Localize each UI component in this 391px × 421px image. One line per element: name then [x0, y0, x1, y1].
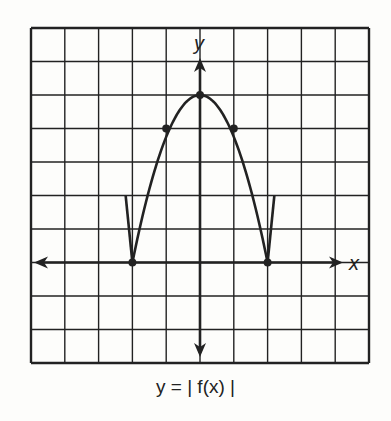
data-point: [162, 125, 170, 133]
data-point: [196, 91, 204, 99]
y-axis-label: y: [192, 32, 205, 54]
x-axis-label: x: [348, 252, 360, 274]
data-point: [128, 259, 136, 267]
graph: xy: [0, 0, 391, 421]
caption: y = | f(x) |: [0, 376, 391, 398]
data-point: [264, 259, 272, 267]
data-point: [230, 125, 238, 133]
